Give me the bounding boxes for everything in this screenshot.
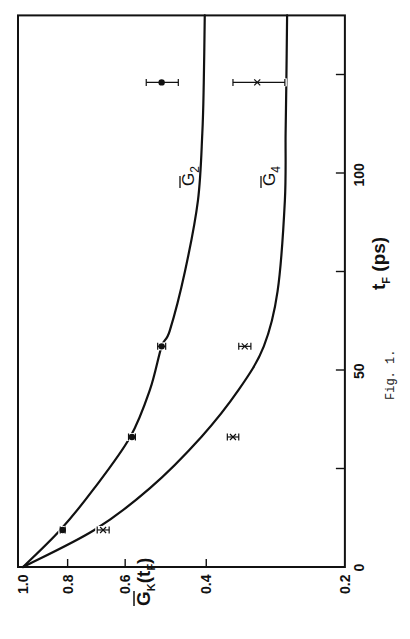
- x-tick-label: 100: [351, 163, 367, 187]
- y-tick-label: 0.8: [60, 574, 76, 594]
- data-point-g4: [231, 78, 287, 86]
- x-tick-label: 0: [351, 564, 367, 572]
- data-points: [58, 78, 287, 534]
- figure-1-chart: 0501001.00.80.60.40.2 G2 G4 tF (ps) GK(t…: [0, 0, 410, 639]
- theory-curves: [23, 15, 287, 567]
- x-tick-label: 50: [351, 363, 367, 379]
- data-point-g2: [58, 526, 67, 534]
- dot-marker: [158, 343, 164, 349]
- dot-marker: [129, 434, 135, 440]
- data-point-g2: [127, 433, 138, 441]
- axis-labels: 0501001.00.80.60.40.2: [15, 163, 367, 594]
- y-tick-label: 0.2: [337, 574, 353, 594]
- curve-g4: [23, 15, 287, 567]
- y-tick-label: 0.4: [198, 574, 214, 594]
- x-axis-title: tF (ps): [368, 237, 392, 290]
- y-axis-title: GK(tF): [133, 558, 157, 606]
- y-tick-label: 1.0: [15, 574, 31, 594]
- figure-caption: Fig. 1.: [384, 350, 398, 400]
- dot-marker: [59, 527, 65, 533]
- dot-marker: [158, 79, 164, 85]
- axis-ticks: [68, 75, 345, 568]
- curve-g2: [23, 15, 205, 567]
- series-label-g4: G4: [260, 166, 283, 186]
- data-point-g2: [156, 342, 168, 350]
- y-tick-label: 0.6: [117, 574, 133, 594]
- data-point-g4: [95, 526, 111, 534]
- series-label-g2: G2: [179, 166, 202, 186]
- data-point-g4: [237, 342, 253, 350]
- data-point-g4: [225, 433, 240, 441]
- data-point-g2: [144, 78, 180, 86]
